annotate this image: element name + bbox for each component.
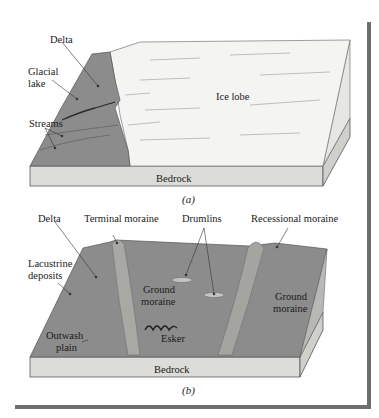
label-bedrock-b: Bedrock	[154, 364, 190, 375]
label-drumlins: Drumlins	[182, 213, 222, 224]
label-delta-a: Delta	[50, 34, 73, 45]
caption-panel-b: (b)	[182, 384, 195, 396]
label-streams: Streams	[29, 118, 63, 129]
label-ground-moraine-right-line1: Ground	[275, 291, 307, 302]
label-ice-lobe: Ice lobe	[216, 91, 250, 102]
caption-panel-a: (a)	[182, 193, 195, 205]
label-terminal-moraine: Terminal moraine	[84, 213, 159, 224]
label-glacial-lake-line2: lake	[28, 78, 46, 89]
panel-a-illustration	[0, 0, 379, 418]
label-lacustrine-line2: deposits	[28, 270, 62, 281]
label-recessional-moraine: Recessional moraine	[251, 213, 338, 224]
label-outwash-line1: Outwash	[46, 330, 83, 341]
label-esker: Esker	[161, 333, 185, 344]
label-ground-moraine-left-line1: Ground	[143, 284, 175, 295]
label-bedrock-a: Bedrock	[156, 173, 192, 184]
label-ground-moraine-right-line2: moraine	[273, 303, 307, 314]
label-delta-b: Delta	[38, 213, 61, 224]
label-outwash-line2: plain	[56, 342, 77, 353]
label-glacial-lake-line1: Glacial	[28, 66, 58, 77]
label-ground-moraine-left-line2: moraine	[141, 296, 175, 307]
label-lacustrine-line1: Lacustrine	[28, 258, 72, 269]
